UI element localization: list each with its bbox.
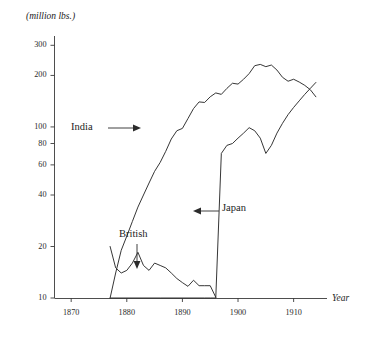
series-line-british (110, 247, 216, 298)
y-tick-label-10: 10 (21, 293, 47, 302)
y-tick-label-200: 200 (21, 70, 47, 79)
series-label-india: India (71, 122, 93, 133)
y-tick-label-20: 20 (21, 242, 47, 251)
series-label-british: British (119, 229, 148, 240)
y-tick-label-60: 60 (21, 160, 47, 169)
series-line-japan (110, 82, 316, 298)
x-tick-label-1880: 1880 (107, 308, 147, 317)
x-tick-label-1890: 1890 (162, 308, 202, 317)
y-tick-label-100: 100 (21, 122, 47, 131)
y-tick-label-40: 40 (21, 190, 47, 199)
japan-arrow (193, 208, 219, 215)
data-series-group (110, 64, 316, 298)
y-tick-label-80: 80 (21, 139, 47, 148)
x-axis-title: Year (332, 294, 349, 304)
x-tick-label-1900: 1900 (218, 308, 258, 317)
y-axis-unit-label: (million lbs.) (26, 12, 75, 22)
chart-plot-area (0, 0, 373, 344)
x-tick-label-1910: 1910 (274, 308, 314, 317)
y-tick-label-300: 300 (21, 40, 47, 49)
y-tick-marks (51, 45, 55, 298)
chart-figure: (million lbs.) Year India British Japan … (0, 0, 373, 344)
series-label-japan: Japan (222, 203, 246, 214)
axes (51, 36, 328, 302)
india-arrow (108, 125, 141, 132)
x-tick-label-1870: 1870 (51, 308, 91, 317)
annotation-arrows (108, 125, 219, 269)
series-line-india (110, 64, 316, 298)
